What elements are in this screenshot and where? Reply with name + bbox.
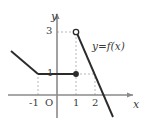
closed-dot-point bbox=[73, 71, 79, 77]
function-label: y=f(x) bbox=[92, 41, 125, 52]
dashed-guides bbox=[38, 32, 95, 95]
x-tick-neg1: -1 bbox=[29, 98, 39, 108]
origin-label: O bbox=[45, 98, 53, 108]
y-tick-1: 1 bbox=[47, 68, 53, 78]
left-ray-segment bbox=[11, 51, 38, 74]
x-tick-1: 1 bbox=[73, 98, 79, 108]
y-axis-label: y bbox=[51, 11, 57, 22]
x-axis-label: x bbox=[133, 99, 139, 110]
function-graph-figure: y x O -1 1 2 1 3 y=f(x) bbox=[0, 0, 146, 124]
axes bbox=[8, 15, 133, 118]
x-tick-2: 2 bbox=[92, 98, 98, 108]
x-axis-arrow-icon bbox=[127, 92, 133, 97]
open-dot-point bbox=[73, 29, 78, 34]
y-tick-3: 3 bbox=[46, 26, 52, 36]
